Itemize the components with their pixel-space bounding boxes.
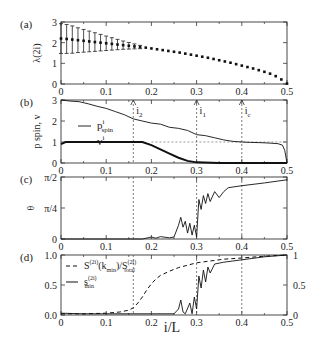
- data-point: [82, 40, 85, 43]
- y-tick-label: 2: [52, 38, 57, 49]
- y2-tick-label: 1: [293, 250, 298, 261]
- panel-a: (a)00.10.20.30.40.50123λ(2i): [20, 17, 293, 97]
- y-axis-label: θ: [25, 205, 36, 210]
- x-tick-label: 0: [59, 241, 64, 252]
- x-tick-label: 0: [59, 165, 64, 176]
- data-point: [252, 67, 255, 70]
- panel-c: (c)00.10.20.30.40.50π/4π/2θ: [20, 172, 293, 252]
- data-point: [150, 47, 153, 50]
- data-point: [111, 43, 114, 46]
- y-tick-label: π/2: [44, 172, 57, 183]
- data-point: [122, 44, 125, 47]
- y-tick-label: 0: [52, 79, 57, 90]
- panel-b: (b)00.10.20.30.40.50123p spin, vi2i1icpi…: [20, 95, 293, 176]
- data-point: [156, 48, 159, 51]
- data-point: [229, 61, 232, 64]
- data-point: [263, 71, 266, 74]
- data-point: [207, 56, 210, 59]
- data-point: [144, 46, 147, 49]
- x-tick-label: 0.2: [145, 317, 158, 328]
- data-point: [60, 37, 63, 40]
- x-tick-label: 0.1: [100, 165, 113, 176]
- marker-label: i2: [136, 105, 143, 119]
- y2-tick-label: 0.5: [293, 280, 306, 291]
- data-point: [280, 78, 283, 81]
- data-point: [195, 54, 198, 57]
- data-point: [201, 55, 204, 58]
- x-tick-label: 0.2: [145, 241, 158, 252]
- x-tick-label: 0.1: [100, 241, 113, 252]
- x-tick-label: 0.1: [100, 86, 113, 97]
- data-point: [65, 38, 68, 41]
- data-point: [128, 44, 131, 47]
- data-point: [257, 69, 260, 72]
- y-axis-label: λ(2i): [31, 43, 43, 62]
- x-tick-label: 0.3: [190, 86, 203, 97]
- series-line: [61, 142, 287, 163]
- x-tick-label: 0.5: [281, 317, 294, 328]
- x-tick-label: 0.5: [281, 86, 294, 97]
- x-tick-label: 0: [59, 86, 64, 97]
- svg-text:pispin: pispin: [97, 118, 114, 134]
- panel-d: (d)00.10.20.30.40.50.00.51.000.51S(2i)(k…: [20, 250, 306, 328]
- data-point: [116, 43, 119, 46]
- svg-text:s(2i)min: s(2i)min: [84, 275, 97, 289]
- panel-label: (a): [20, 18, 33, 31]
- data-point: [161, 49, 164, 52]
- svg-text:S(2i)(kmin)/S(2i)total: S(2i)(kmin)/S(2i)total: [84, 259, 136, 273]
- data-point: [212, 58, 215, 61]
- series-line: [61, 180, 287, 239]
- x-tick-label: 0.3: [190, 165, 203, 176]
- panel-label: (c): [20, 173, 33, 186]
- data-point: [88, 40, 91, 43]
- y-tick-label: 1.0: [45, 250, 58, 261]
- data-point: [71, 38, 74, 41]
- data-point: [286, 82, 289, 85]
- y-tick-label: 3: [52, 95, 57, 106]
- x-tick-label: 0.3: [190, 317, 203, 328]
- x-tick-label: 0.1: [100, 317, 113, 328]
- x-tick-label: 0.4: [236, 241, 249, 252]
- x-tick-label: 0.2: [145, 86, 158, 97]
- y-tick-label: 3: [52, 17, 57, 28]
- y-tick-label: 0: [52, 234, 57, 245]
- data-point: [269, 72, 272, 75]
- plot-frame: [61, 100, 287, 163]
- y-tick-label: π/4: [44, 203, 57, 214]
- data-point: [105, 42, 108, 45]
- data-point: [184, 52, 187, 55]
- x-tick-label: 0.3: [190, 241, 203, 252]
- data-point: [139, 46, 142, 49]
- series-line: [61, 100, 287, 163]
- x-tick-label: 0.4: [236, 317, 249, 328]
- x-tick-label: 0.5: [281, 241, 294, 252]
- data-point: [218, 59, 221, 62]
- data-point: [224, 60, 227, 63]
- x-tick-label: 0.4: [236, 165, 249, 176]
- data-point: [77, 39, 80, 42]
- y2-tick-label: 0: [293, 310, 298, 321]
- plot-frame: [61, 177, 287, 239]
- x-tick-label: 0.5: [281, 165, 294, 176]
- data-point: [133, 45, 136, 48]
- figure: (a)00.10.20.30.40.50123λ(2i)(b)00.10.20.…: [0, 0, 322, 353]
- data-point: [94, 41, 97, 44]
- data-point: [235, 63, 238, 66]
- y-tick-label: 1: [52, 137, 57, 148]
- data-point: [246, 66, 249, 69]
- y-tick-label: 0.5: [45, 280, 58, 291]
- y-axis-label: p spin, v: [31, 114, 42, 148]
- marker-label: ic: [245, 105, 251, 119]
- data-point: [178, 51, 181, 54]
- y-tick-label: 2: [52, 116, 57, 127]
- marker-label: i1: [200, 105, 207, 119]
- data-point: [241, 64, 244, 67]
- data-point: [173, 50, 176, 53]
- y-tick-label: 0: [52, 158, 57, 169]
- x-tick-label: 0.4: [236, 86, 249, 97]
- y-tick-label: 0.0: [45, 310, 58, 321]
- data-point: [167, 50, 170, 53]
- x-axis-label: i/L: [164, 320, 180, 335]
- panel-label: (b): [20, 96, 33, 109]
- y-tick-label: 1: [52, 58, 57, 69]
